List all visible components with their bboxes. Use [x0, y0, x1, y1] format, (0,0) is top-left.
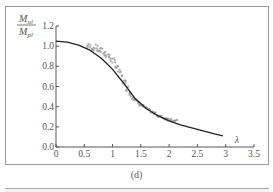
x-tick-label: 0	[54, 149, 59, 159]
y-tick-label: 0.0	[42, 142, 54, 152]
svg-text:Mpl: Mpl	[18, 26, 33, 39]
x-tick-label: 0.5	[78, 149, 90, 159]
x-tick-label: 3	[223, 149, 228, 159]
scatter-band	[86, 43, 178, 123]
x-tick-label: 1.5	[135, 149, 147, 159]
axes: 00.511.522.533.50.00.20.40.60.81.01.2λMu…	[17, 13, 260, 159]
next-panel-edge	[5, 188, 269, 192]
y-tick-label: 0.6	[42, 82, 54, 92]
x-tick-label: 2.5	[191, 149, 203, 159]
y-tick-label: 0.2	[42, 122, 54, 132]
y-tick-label: 0.4	[42, 102, 54, 112]
plot-area	[56, 41, 223, 136]
y-axis-label: MulMpl	[17, 13, 36, 39]
x-tick-label: 2	[167, 149, 172, 159]
svg-text:Mul: Mul	[18, 13, 33, 26]
design-curve	[56, 41, 223, 136]
y-tick-label: 1.0	[42, 41, 54, 51]
x-tick-label: 3.5	[248, 149, 260, 159]
figure-caption: (d)	[0, 169, 273, 180]
x-axis-label: λ	[234, 134, 240, 145]
y-tick-label: 1.2	[42, 21, 54, 31]
chart: 00.511.522.533.50.00.20.40.60.81.01.2λMu…	[0, 0, 273, 192]
y-tick-label: 0.8	[42, 61, 54, 71]
x-tick-label: 1	[110, 149, 115, 159]
